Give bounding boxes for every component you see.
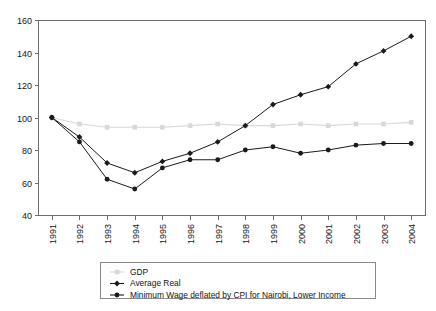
data-point-marker: [271, 144, 276, 149]
data-point-marker: [132, 170, 138, 176]
y-tick-label: 140: [17, 49, 32, 59]
legend-label: Minimum Wage deflated by CPI for Nairobi…: [130, 290, 346, 300]
data-point-marker: [381, 48, 387, 54]
series-2: [49, 33, 414, 175]
data-point-marker: [298, 151, 303, 156]
data-point-marker: [159, 158, 165, 164]
x-tick-label: 1995: [158, 224, 168, 244]
x-tick-label: 1994: [131, 224, 141, 244]
data-point-marker: [354, 122, 359, 127]
series-layer: [49, 33, 414, 191]
x-tick-label: 2004: [407, 224, 417, 244]
data-point-marker: [187, 150, 193, 156]
data-point-marker: [326, 148, 331, 153]
x-tick-label: 1996: [186, 224, 196, 244]
x-tick-label: 1998: [241, 224, 251, 244]
series-1: [50, 115, 414, 129]
data-point-marker: [77, 122, 82, 127]
x-tick-label: 1997: [214, 224, 224, 244]
data-point-marker: [409, 120, 414, 125]
data-point-marker: [160, 125, 165, 130]
series-line: [52, 36, 411, 173]
x-tick-label: 1991: [48, 224, 58, 244]
y-tick-label: 60: [22, 179, 32, 189]
x-tick-label: 2000: [297, 224, 307, 244]
data-point-marker: [105, 177, 110, 182]
y-tick-label: 120: [17, 81, 32, 91]
x-axis-tick-marks: [53, 216, 412, 220]
x-axis-tick-labels: 1991199219931994199519961997199819992000…: [48, 224, 417, 244]
x-tick-label: 1992: [75, 224, 85, 244]
data-point-marker: [215, 157, 220, 162]
y-axis-tick-labels: 406080100120140160: [17, 16, 32, 221]
legend-item: Minimum Wage deflated by CPI for Nairobi…: [110, 290, 346, 300]
y-tick-label: 160: [17, 16, 32, 26]
data-point-marker: [353, 143, 358, 148]
y-tick-label: 40: [22, 211, 32, 221]
legend-items: GDPAverage RealMinimum Wage deflated by …: [110, 267, 346, 300]
data-point-marker: [77, 139, 82, 144]
data-point-marker: [381, 122, 386, 127]
data-point-marker: [408, 33, 414, 39]
data-point-marker: [409, 141, 414, 146]
x-tick-label: 1999: [269, 224, 279, 244]
data-point-marker: [160, 165, 165, 170]
data-point-marker: [114, 281, 120, 287]
data-point-marker: [243, 148, 248, 153]
data-point-marker: [188, 123, 193, 128]
data-point-marker: [215, 139, 221, 145]
x-tick-label: 1993: [103, 224, 113, 244]
line-chart: 406080100120140160 199119921993199419951…: [0, 0, 436, 311]
data-point-marker: [132, 187, 137, 192]
data-point-marker: [271, 123, 276, 128]
chart-legend: GDPAverage RealMinimum Wage deflated by …: [101, 263, 376, 300]
x-tick-label: 2001: [324, 224, 334, 244]
legend-item: GDP: [110, 267, 149, 277]
data-point-marker: [115, 293, 120, 298]
x-tick-label: 2002: [352, 224, 362, 244]
data-point-marker: [115, 270, 120, 275]
legend-label: GDP: [130, 267, 149, 277]
data-point-marker: [298, 122, 303, 127]
data-point-marker: [188, 157, 193, 162]
data-point-marker: [49, 115, 54, 120]
data-point-marker: [105, 125, 110, 130]
y-axis-tick-marks: [35, 21, 39, 216]
data-point-marker: [215, 122, 220, 127]
data-point-marker: [326, 123, 331, 128]
legend-item: Average Real: [110, 278, 181, 288]
chart-figure: 406080100120140160 199119921993199419951…: [0, 0, 436, 311]
data-point-marker: [132, 125, 137, 130]
data-point-marker: [381, 141, 386, 146]
data-point-marker: [298, 92, 304, 98]
y-tick-label: 100: [17, 114, 32, 124]
y-tick-label: 80: [22, 146, 32, 156]
legend-label: Average Real: [130, 278, 181, 288]
x-tick-label: 2003: [380, 224, 390, 244]
